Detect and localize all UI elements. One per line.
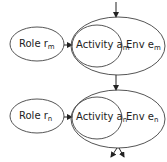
activity-label-n: Activity an bbox=[76, 111, 127, 124]
group-n: Role rn Activity an Env en bbox=[10, 90, 165, 148]
outgoing-arrow-left bbox=[111, 148, 117, 157]
group-m: Role rm Activity am Env em bbox=[10, 17, 165, 75]
env-label-n: Env en bbox=[126, 111, 158, 124]
outgoing-arrow-right bbox=[119, 148, 124, 157]
role-label-n: Role rn bbox=[19, 110, 52, 123]
diagram-canvas: Role rm Activity am Env em Role rn Activ… bbox=[0, 0, 167, 162]
env-label-m: Env em bbox=[126, 39, 161, 52]
role-label-m: Role rm bbox=[19, 38, 55, 51]
